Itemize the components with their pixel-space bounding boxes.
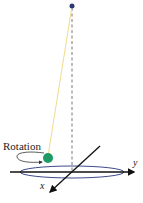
conical-pendulum-diagram: y x Rotation [0, 0, 143, 203]
x-axis [50, 146, 100, 192]
x-axis-label: x [39, 180, 45, 191]
y-axis-label: y [132, 157, 138, 168]
rotation-arrow-icon [17, 152, 44, 162]
pendulum-string [48, 6, 72, 156]
pivot-point [70, 4, 75, 9]
rotation-label: Rotation [3, 140, 41, 152]
pendulum-bob [43, 153, 53, 163]
